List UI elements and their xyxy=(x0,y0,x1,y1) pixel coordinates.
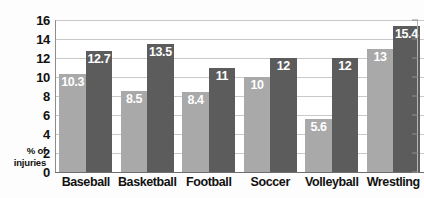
bar[interactable]: 13.5 xyxy=(147,44,173,172)
bar-value-label: 12 xyxy=(270,60,296,73)
y-tick-label: 16 xyxy=(16,14,50,27)
bar[interactable]: 8.4 xyxy=(182,92,208,172)
y-tick-label: 2 xyxy=(16,147,50,160)
bar-chart: % of injuries 0246810121416 10.312.78.51… xyxy=(0,0,424,198)
x-axis-label: Wrestling xyxy=(363,175,424,190)
y-tick-label: 10 xyxy=(16,71,50,84)
bar-value-label: 12 xyxy=(332,60,358,73)
bar[interactable]: 12.7 xyxy=(86,51,112,172)
bar-value-label: 8.5 xyxy=(121,93,147,106)
bar-value-label: 10 xyxy=(244,79,270,92)
y-tick-label: 14 xyxy=(16,33,50,46)
x-axis-label: Soccer xyxy=(240,175,302,190)
x-axis-label: Basketball xyxy=(117,175,179,190)
bar-group: 8.411 xyxy=(182,20,235,172)
bar-group: 10.312.7 xyxy=(59,20,112,172)
right-axis-tick xyxy=(412,96,418,97)
bar[interactable]: 5.6 xyxy=(305,119,331,172)
right-axis-tick xyxy=(412,58,418,59)
bar[interactable]: 11 xyxy=(209,68,235,173)
plot-area: 10.312.78.513.58.41110125.6121315.4 xyxy=(55,20,424,172)
x-axis-labels: BaseballBasketballFootballSoccerVolleyba… xyxy=(55,175,424,195)
y-tick-label: 8 xyxy=(16,90,50,103)
bar-value-label: 11 xyxy=(209,70,235,83)
right-axis-tick xyxy=(412,115,418,116)
bar[interactable]: 10.3 xyxy=(59,74,85,172)
bar[interactable]: 13 xyxy=(367,49,393,173)
bar-group: 8.513.5 xyxy=(121,20,174,172)
right-axis-line xyxy=(417,20,418,173)
x-axis-label: Football xyxy=(178,175,240,190)
bar[interactable]: 8.5 xyxy=(121,91,147,172)
y-tick-label: 12 xyxy=(16,52,50,65)
right-axis-tick xyxy=(412,39,418,40)
right-axis-tick xyxy=(412,20,418,21)
y-tick-label: 0 xyxy=(16,166,50,179)
x-axis-label: Baseball xyxy=(55,175,117,190)
right-axis-tick xyxy=(412,172,418,173)
bar-value-label: 8.4 xyxy=(182,94,208,107)
bar[interactable]: 15.4 xyxy=(393,26,419,172)
bar-value-label: 13 xyxy=(367,51,393,64)
x-axis-line xyxy=(55,172,424,173)
bar-value-label: 5.6 xyxy=(305,121,331,134)
y-tick-label: 6 xyxy=(16,109,50,122)
y-axis-ticks: 0246810121416 xyxy=(16,13,50,173)
bar-group: 1012 xyxy=(244,20,297,172)
right-axis-tick xyxy=(412,77,418,78)
bar-value-label: 10.3 xyxy=(59,76,85,89)
bar[interactable]: 12 xyxy=(270,58,296,172)
bar-value-label: 13.5 xyxy=(147,46,173,59)
bar[interactable]: 10 xyxy=(244,77,270,172)
y-tick-label: 4 xyxy=(16,128,50,141)
bar-value-label: 12.7 xyxy=(86,53,112,66)
right-axis-tick xyxy=(412,153,418,154)
right-axis-tick xyxy=(412,134,418,135)
bar[interactable]: 12 xyxy=(332,58,358,172)
y-axis-line xyxy=(55,20,56,173)
bar-group: 5.612 xyxy=(305,20,358,172)
x-axis-label: Volleyball xyxy=(301,175,363,190)
